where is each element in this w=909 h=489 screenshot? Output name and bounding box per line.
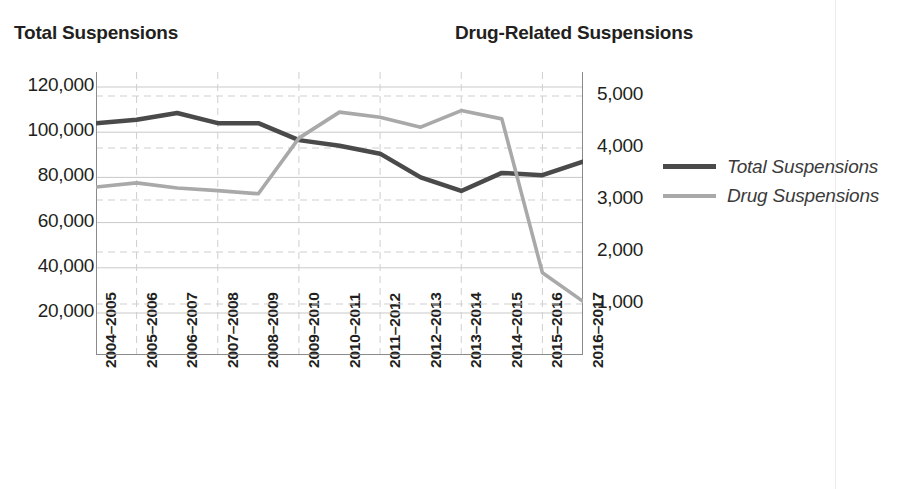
legend-line-swatch-icon — [663, 194, 716, 198]
left-axis-tick-label: 100,000 — [27, 119, 94, 141]
series-line-drug-suspensions — [96, 111, 583, 302]
left-axis-tick-label: 120,000 — [27, 74, 94, 96]
right-axis-tick-label: 4,000 — [597, 135, 643, 157]
left-axis-title: Total Suspensions — [14, 22, 178, 44]
legend-item-label: Drug Suspensions — [727, 185, 879, 207]
legend-line-swatch-icon — [663, 164, 716, 169]
right-axis-tick-label: 5,000 — [597, 83, 643, 105]
chart-legend: Total SuspensionsDrug Suspensions — [663, 152, 903, 210]
left-axis-tick-label: 20,000 — [38, 300, 94, 322]
left-axis-tick-label: 80,000 — [38, 164, 94, 186]
legend-item[interactable]: Total Suspensions — [663, 152, 903, 181]
x-axis-tick-label: 2016–2017 — [589, 292, 607, 368]
legend-item[interactable]: Drug Suspensions — [663, 181, 903, 210]
plot-area — [96, 72, 583, 355]
chart-root: Total Suspensions Drug-Related Suspensio… — [0, 0, 909, 489]
legend-item-label: Total Suspensions — [727, 156, 878, 178]
page-fold-line — [835, 0, 836, 489]
right-axis-title: Drug-Related Suspensions — [455, 22, 693, 44]
left-axis-tick-label: 60,000 — [38, 210, 94, 232]
left-axis-tick-label: 40,000 — [38, 255, 94, 277]
chart-svg — [96, 72, 583, 355]
right-axis-tick-label: 2,000 — [597, 239, 643, 261]
right-axis-tick-label: 3,000 — [597, 187, 643, 209]
